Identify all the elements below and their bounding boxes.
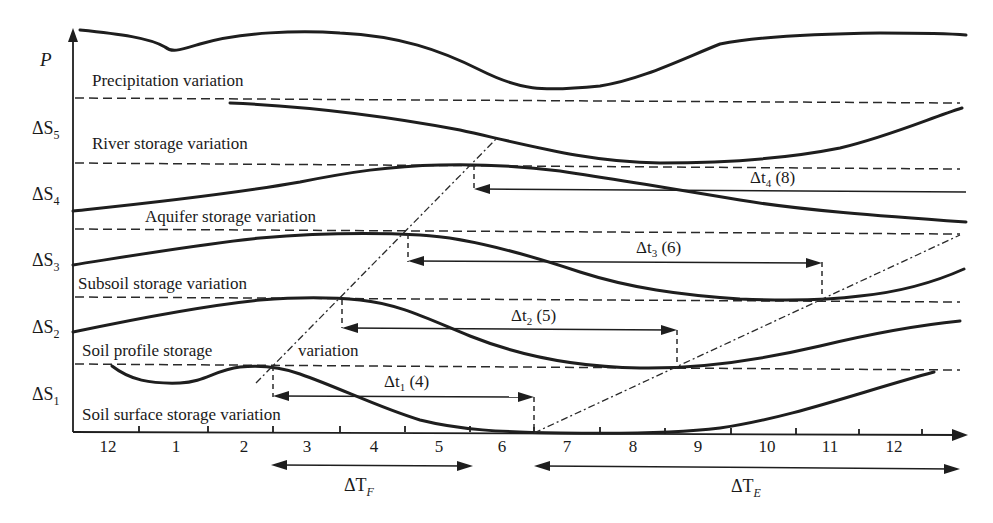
lag-label-t3: Δt3 (6) — [636, 238, 681, 259]
y-axis — [68, 28, 78, 432]
y-labels: P ΔS5 ΔS4 ΔS3 ΔS2 ΔS1 — [32, 49, 60, 408]
curves — [73, 30, 966, 433]
guide-lines — [256, 137, 960, 433]
svg-text:8: 8 — [629, 437, 638, 456]
svg-text:9: 9 — [694, 437, 703, 456]
y-label-p: P — [39, 49, 52, 70]
lag-label-t1: Δt1 (4) — [384, 372, 429, 393]
river-storage-curve — [230, 103, 962, 163]
storage-lag-diagram: P ΔS5 ΔS4 ΔS3 ΔS2 ΔS1 Precipitation vari… — [0, 0, 993, 523]
label-aquifer: Aquifer storage variation — [145, 207, 316, 226]
y-label-s2: ΔS2 — [32, 317, 60, 341]
y-label-s1: ΔS1 — [32, 384, 60, 408]
svg-text:10: 10 — [759, 437, 776, 456]
label-soil-surface: Soil surface storage variation — [82, 405, 281, 424]
y-label-s4: ΔS4 — [32, 184, 60, 208]
label-subsoil: Subsoil storage variation — [78, 274, 248, 293]
y-label-s3: ΔS3 — [32, 250, 60, 274]
label-precipitation: Precipitation variation — [92, 71, 244, 90]
period-arrows — [271, 460, 960, 474]
svg-text:12: 12 — [886, 437, 903, 456]
svg-text:3: 3 — [303, 437, 312, 456]
label-soil-profile-2: variation — [298, 341, 359, 360]
svg-text:2: 2 — [240, 437, 249, 456]
svg-text:5: 5 — [435, 437, 444, 456]
lag-labels: Δt4 (8) Δt3 (6) Δt2 (5) Δt1 (4) — [384, 168, 795, 393]
svg-text:7: 7 — [563, 437, 572, 456]
svg-text:12: 12 — [100, 437, 117, 456]
svg-text:11: 11 — [822, 437, 838, 456]
period-label-dry: ΔTE — [731, 476, 762, 500]
svg-text:6: 6 — [498, 437, 507, 456]
period-label-flood: ΔTF — [344, 475, 375, 499]
x-tick-labels: 12 1 2 3 4 5 6 7 8 9 10 11 12 — [100, 437, 903, 456]
label-river: River storage variation — [92, 134, 248, 153]
svg-text:4: 4 — [370, 437, 379, 456]
lag-label-t4: Δt4 (8) — [750, 168, 795, 189]
y-label-s5: ΔS5 — [32, 118, 60, 142]
svg-text:1: 1 — [172, 437, 181, 456]
period-labels: ΔTF ΔTE — [344, 475, 762, 500]
lag-label-t2: Δt2 (5) — [511, 306, 556, 327]
label-soil-profile: Soil profile storage — [82, 341, 212, 360]
